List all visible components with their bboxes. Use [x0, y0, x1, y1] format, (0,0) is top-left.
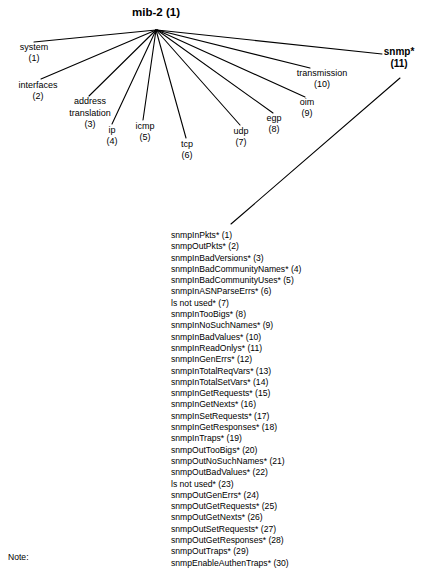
list-item: snmpInBadCommunityUses* (5)	[171, 275, 301, 286]
list-item: ls not used* (7)	[171, 298, 301, 309]
list-item: snmpInGetNexts* (16)	[171, 399, 301, 410]
list-item: snmpInReadOnlys* (11)	[171, 343, 301, 354]
node-ip[interactable]: ip (4)	[97, 125, 127, 147]
node-tcp-label: tcp	[172, 139, 202, 150]
node-udp[interactable]: udp (7)	[226, 126, 256, 148]
edge-to-udp	[156, 30, 240, 125]
node-interfaces-label: interfaces	[0, 80, 76, 91]
list-item: snmpInTotalReqVars* (13)	[171, 366, 301, 377]
list-item: snmpOutGenErrs* (24)	[171, 490, 301, 501]
list-item: snmpInBadVersions* (3)	[171, 253, 301, 264]
list-item: snmpInTooBigs* (8)	[171, 309, 301, 320]
list-item: snmpEnableAuthenTraps* (30)	[171, 558, 301, 569]
list-item: snmpOutGetNexts* (26)	[171, 512, 301, 523]
list-item: snmpInTotalSetVars* (14)	[171, 377, 301, 388]
node-system-oid: (1)	[2, 53, 66, 64]
node-udp-oid: (7)	[226, 137, 256, 148]
node-snmp-label: snmp*	[375, 46, 423, 58]
list-item: snmpInGetRequests* (15)	[171, 388, 301, 399]
edge-to-transmission	[157, 30, 310, 68]
node-transmission-oid: (10)	[283, 79, 361, 90]
list-item: snmpOutGetResponses* (28)	[171, 535, 301, 546]
list-item: snmpOutNoSuchNames* (21)	[171, 456, 301, 467]
node-address-translation-label-line2: translation	[55, 108, 125, 120]
node-egp-label: egp	[259, 113, 289, 124]
node-icmp-oid: (5)	[128, 132, 162, 143]
edge-to-icmp	[143, 30, 156, 120]
list-item: snmpInPkts* (1)	[171, 230, 301, 241]
edge-to-address-translation	[89, 30, 156, 96]
node-transmission-label: transmission	[283, 68, 361, 79]
list-item: snmpInSetRequests* (17)	[171, 411, 301, 422]
node-icmp-label: icmp	[128, 121, 162, 132]
node-snmp[interactable]: snmp* (11)	[375, 46, 423, 70]
snmp-variable-list: snmpInPkts* (1) snmpOutPkts* (2) snmpInB…	[171, 230, 301, 569]
list-item: snmpInNoSuchNames* (9)	[171, 320, 301, 331]
node-transmission[interactable]: transmission (10)	[283, 68, 361, 90]
node-mib-2-label: mib-2 (1)	[132, 6, 180, 18]
node-mib-2[interactable]: mib-2 (1)	[111, 6, 201, 19]
list-item: ls not used* (23)	[171, 479, 301, 490]
node-address-translation-label-line1: address	[55, 96, 125, 108]
node-udp-label: udp	[226, 126, 256, 137]
node-tcp-oid: (6)	[172, 150, 202, 161]
node-oim-label: oim	[292, 97, 322, 108]
node-ip-label: ip	[97, 125, 127, 136]
list-item: snmpInBadValues* (10)	[171, 332, 301, 343]
node-oim[interactable]: oim (9)	[292, 97, 322, 119]
list-item: snmpInTraps* (19)	[171, 433, 301, 444]
list-item: snmpOutPkts* (2)	[171, 241, 301, 252]
list-item: snmpInGenErrs* (12)	[171, 354, 301, 365]
node-ip-oid: (4)	[97, 136, 127, 147]
node-egp[interactable]: egp (8)	[259, 113, 289, 135]
edge-to-snmp	[157, 30, 382, 54]
note-label: Note:	[8, 552, 29, 563]
node-snmp-oid: (11)	[375, 58, 423, 70]
list-item: snmpOutSetRequests* (27)	[171, 524, 301, 535]
node-system[interactable]: system (1)	[2, 42, 66, 64]
list-item: snmpOutTooBigs* (20)	[171, 445, 301, 456]
list-item: snmpInGetResponses* (18)	[171, 422, 301, 433]
node-egp-oid: (8)	[259, 124, 289, 135]
node-icmp[interactable]: icmp (5)	[128, 121, 162, 143]
mib2-tree-diagram: mib-2 (1) system (1) interfaces (2) addr…	[0, 0, 425, 573]
list-item: snmpOutBadValues* (22)	[171, 467, 301, 478]
node-tcp[interactable]: tcp (6)	[172, 139, 202, 161]
node-oim-oid: (9)	[292, 108, 322, 119]
list-item: snmpInBadCommunityNames* (4)	[171, 264, 301, 275]
list-item: snmpOutTraps* (29)	[171, 546, 301, 557]
list-item: snmpOutGetRequests* (25)	[171, 501, 301, 512]
list-item: snmpInASNParseErrs* (6)	[171, 286, 301, 297]
edge-to-system	[34, 30, 156, 42]
edge-to-egp	[157, 30, 273, 113]
node-system-label: system	[2, 42, 66, 53]
